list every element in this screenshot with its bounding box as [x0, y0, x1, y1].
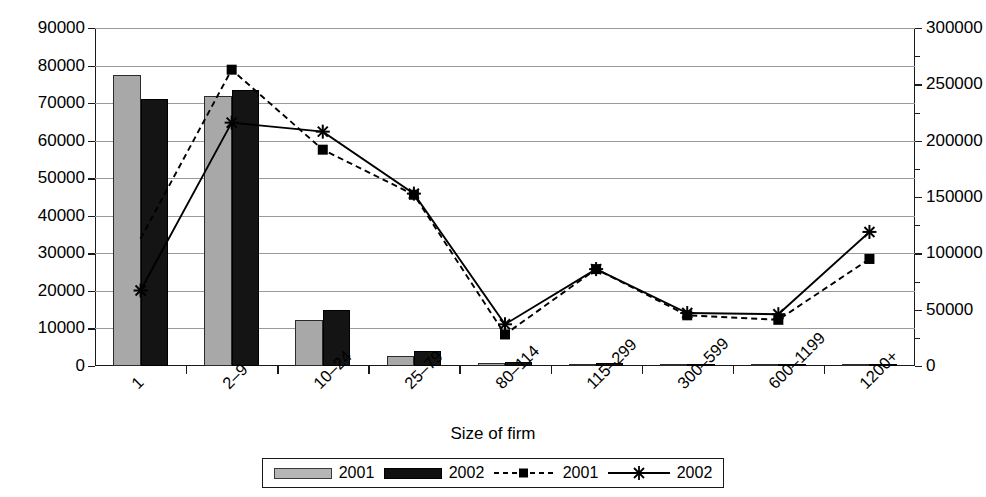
left-tick: [88, 141, 95, 142]
x-tick: [459, 366, 460, 374]
left-axis-tick-label: 30000: [38, 243, 85, 263]
marker-asterisk-2002-10–24: [316, 125, 330, 139]
left-axis-tick-label: 20000: [38, 281, 85, 301]
x-tick: [551, 366, 552, 374]
plot-area: 0100002000030000400005000060000700008000…: [95, 28, 915, 366]
left-tick: [88, 291, 95, 292]
legend-label-bar-2002: 2002: [449, 464, 485, 482]
chart-figure: 0100002000030000400005000060000700008000…: [0, 0, 986, 497]
marker-asterisk-2002-300–599: [680, 306, 694, 320]
x-axis-label-1: 1: [127, 373, 147, 393]
marker-asterisk-2002-600–1199: [771, 307, 785, 321]
right-tick: [915, 84, 922, 85]
chart-legend: 2001 2002 2001 2002: [262, 458, 724, 488]
x-tick: [824, 366, 825, 374]
marker-asterisk-2002-80–114: [498, 317, 512, 331]
right-axis-tick-label: 150000: [926, 187, 983, 207]
x-tick: [368, 366, 369, 374]
right-axis-tick-label: 100000: [926, 243, 983, 263]
left-tick: [88, 66, 95, 67]
marker-asterisk-2002-2–9: [225, 116, 239, 130]
right-minor-tick: [915, 113, 920, 114]
right-axis-tick-label: 300000: [926, 18, 983, 38]
right-minor-tick: [915, 338, 920, 339]
marker-square-2001-1200+: [864, 254, 874, 264]
right-minor-tick: [915, 282, 920, 283]
x-tick: [642, 366, 643, 374]
right-axis-tick-label: 200000: [926, 131, 983, 151]
left-tick: [88, 178, 95, 179]
marker-asterisk-2002-1: [134, 284, 148, 298]
right-tick: [915, 28, 922, 29]
legend-dashed-square-icon: [494, 466, 556, 480]
right-tick: [915, 253, 922, 254]
legend-swatch-black: [384, 468, 442, 479]
right-tick: [915, 310, 922, 311]
x-tick: [186, 366, 187, 374]
left-tick: [88, 103, 95, 104]
line-2002-line-solid: [141, 123, 870, 325]
legend-item-bar-2001: 2001: [274, 464, 375, 482]
legend-swatch-gray: [274, 468, 332, 479]
right-axis-tick-label: 0: [926, 356, 935, 376]
left-axis-tick-label: 40000: [38, 206, 85, 226]
line-series-group: [95, 28, 915, 366]
right-minor-tick: [915, 169, 920, 170]
right-axis-tick-label: 250000: [926, 74, 983, 94]
x-tick: [277, 366, 278, 374]
right-tick: [915, 141, 922, 142]
left-axis-tick-label: 10000: [38, 318, 85, 338]
right-minor-tick: [915, 225, 920, 226]
marker-asterisk-2002-1200+: [862, 225, 876, 239]
right-axis-tick-label: 50000: [926, 300, 973, 320]
legend-item-line-2002: 2002: [608, 464, 713, 482]
legend-solid-asterisk-icon: [608, 466, 670, 480]
left-axis-tick-label: 70000: [38, 93, 85, 113]
line-2001-line-dashed: [141, 70, 870, 335]
x-axis-title: Size of firm: [0, 424, 986, 444]
left-axis-tick-label: 90000: [38, 18, 85, 38]
x-tick: [733, 366, 734, 374]
left-tick: [88, 216, 95, 217]
legend-label-line-2002: 2002: [677, 464, 713, 482]
left-axis-tick-label: 0: [76, 356, 85, 376]
right-minor-tick: [915, 56, 920, 57]
left-tick: [88, 328, 95, 329]
legend-label-bar-2001: 2001: [339, 464, 375, 482]
left-axis-tick-label: 60000: [38, 131, 85, 151]
left-tick: [88, 366, 95, 367]
marker-asterisk-2002-25–79: [407, 187, 421, 201]
left-tick: [88, 28, 95, 29]
left-axis-tick-label: 80000: [38, 56, 85, 76]
legend-item-bar-2002: 2002: [384, 464, 485, 482]
marker-square-2001-2–9: [227, 65, 237, 75]
right-tick: [915, 366, 922, 367]
marker-square-2001-10–24: [318, 145, 328, 155]
left-tick: [88, 253, 95, 254]
left-axis-tick-label: 50000: [38, 168, 85, 188]
legend-label-line-2001: 2001: [563, 464, 599, 482]
right-tick: [915, 197, 922, 198]
legend-item-line-2001: 2001: [494, 464, 599, 482]
marker-asterisk-2002-115–299: [589, 262, 603, 276]
